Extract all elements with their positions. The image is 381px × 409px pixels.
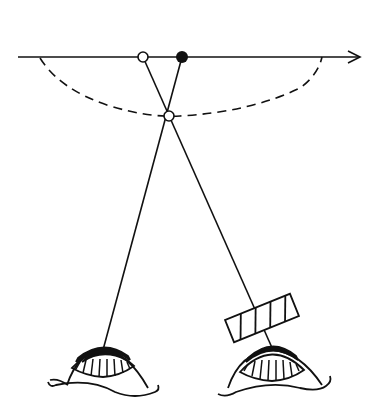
hatched-prism xyxy=(225,294,299,342)
fixation-point-open xyxy=(164,111,174,121)
binocular-diagram xyxy=(0,0,381,409)
left-eye xyxy=(48,347,159,396)
sight-line-right-eye xyxy=(143,57,273,350)
dashed-arc xyxy=(40,57,322,116)
sight-line-left-eye xyxy=(103,57,182,350)
perceived-point-open xyxy=(138,52,148,62)
diagram-canvas xyxy=(0,0,381,409)
actual-point-filled xyxy=(176,51,188,63)
